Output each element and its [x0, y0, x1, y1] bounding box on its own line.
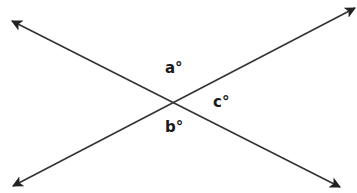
intersecting-lines-diagram: a° c° b°: [0, 0, 357, 193]
angle-c-label: c°: [213, 93, 229, 111]
angle-b-label: b°: [165, 118, 183, 136]
line-1: [12, 21, 340, 187]
line-2: [13, 8, 355, 186]
angle-a-label: a°: [165, 59, 183, 77]
